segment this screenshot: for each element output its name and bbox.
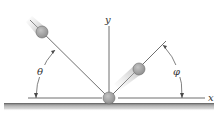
collision-diagram: x y θ φ — [0, 0, 224, 132]
arrowhead-icon — [51, 50, 55, 54]
x-axis-label: x — [208, 92, 214, 103]
contact-ball — [103, 92, 115, 104]
arrowhead-icon — [34, 93, 38, 98]
y-axis-label: y — [104, 14, 111, 25]
incoming-ball — [36, 26, 48, 38]
outgoing-ball-group — [114, 63, 145, 90]
outgoing-ball — [133, 63, 145, 75]
arrowhead-icon — [180, 93, 184, 98]
theta-label: θ — [37, 66, 43, 77]
arrowhead-icon — [163, 45, 167, 49]
incoming-ball-group — [26, 16, 48, 38]
phi-label: φ — [173, 66, 180, 77]
